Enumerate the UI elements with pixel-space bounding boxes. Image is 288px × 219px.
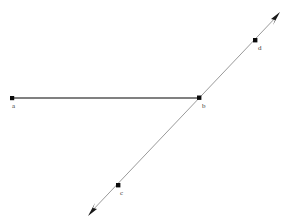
point-a-dot bbox=[10, 96, 14, 100]
arrow-lower-left-icon bbox=[88, 203, 97, 216]
point-label-c: c bbox=[120, 190, 123, 197]
arrow-upper-right-icon bbox=[271, 12, 280, 25]
point-c-dot bbox=[116, 183, 120, 187]
figure-canvas bbox=[0, 0, 288, 219]
point-b-dot bbox=[197, 96, 201, 100]
point-label-b: b bbox=[202, 103, 206, 110]
point-label-a: a bbox=[12, 103, 15, 110]
point-label-d: d bbox=[258, 45, 262, 52]
geometry-figure: a b c d bbox=[0, 0, 288, 219]
point-d-dot bbox=[253, 38, 257, 42]
